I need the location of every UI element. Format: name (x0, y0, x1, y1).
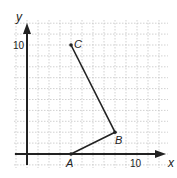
point-c-label: C (74, 38, 82, 50)
grid (14, 20, 168, 168)
coordinate-plane: x y 10 10 A B C (0, 0, 177, 178)
y-axis-label: y (15, 10, 23, 24)
point-a-label: A (65, 157, 73, 169)
y-axis-arrow-icon (23, 23, 31, 34)
y-tick-label: 10 (13, 40, 25, 51)
point-a-dot (69, 152, 73, 156)
point-b-label: B (115, 134, 122, 146)
point-c-dot (69, 43, 73, 47)
x-tick-label: 10 (130, 158, 142, 169)
x-axis-arrow-icon (155, 150, 166, 158)
x-axis-label: x (167, 156, 175, 170)
